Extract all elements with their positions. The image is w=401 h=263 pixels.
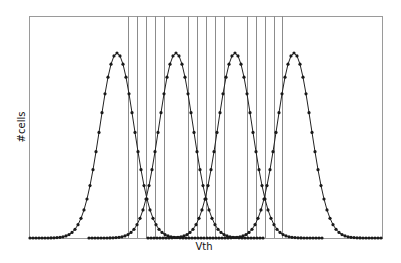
plot-area xyxy=(0,0,401,263)
distribution-curves xyxy=(28,51,382,239)
y-axis-label: #cells xyxy=(16,112,27,143)
distribution-state-2 xyxy=(146,51,323,239)
distribution-state-1 xyxy=(87,51,264,239)
x-axis-label: Vth xyxy=(195,241,212,252)
read-reference-lines xyxy=(129,16,283,238)
distribution-state-0 xyxy=(28,51,205,239)
distribution-state-3 xyxy=(205,51,382,239)
